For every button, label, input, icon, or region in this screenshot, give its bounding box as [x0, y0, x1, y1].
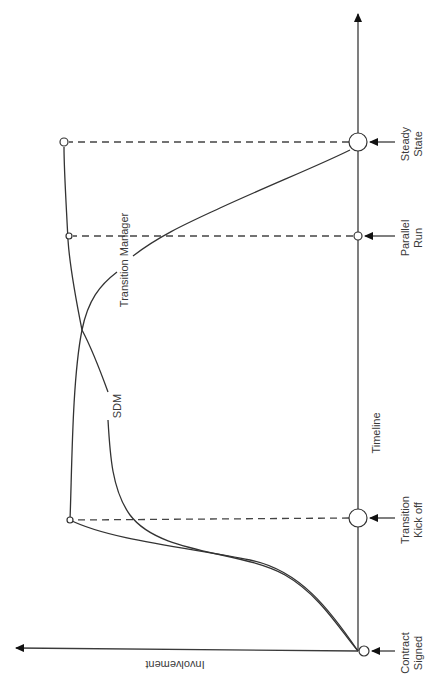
transition-involvement-diagram: Contract Signed Transition Kick off Para…: [0, 0, 445, 699]
parallel-run-node: [354, 232, 362, 240]
sdm-curve-label: SDM: [111, 394, 123, 418]
involvement-axis: [16, 648, 358, 651]
kickoff-dashed-guide: [74, 518, 349, 520]
steady-state-node: [349, 133, 367, 151]
sdm-curve: [108, 420, 358, 651]
sdm-curve-upper: [64, 147, 108, 392]
involvement-axis-label: Involvement: [145, 659, 204, 671]
parallel-run-node-left: [66, 233, 72, 239]
steady-state-label-line2: State: [412, 131, 424, 157]
contract-signed-label-line2: Signed: [412, 636, 424, 670]
steady-state-sdm-peak-node: [60, 138, 68, 146]
kickoff-label-line2: Kick off: [412, 501, 424, 538]
steady-state-label-line1: Steady: [399, 126, 411, 161]
contract-signed-node: [359, 646, 369, 656]
kickoff-label-line1: Transition: [399, 496, 411, 544]
transition-manager-curve-upper: [133, 150, 350, 256]
transition-manager-curve-label: Transition Manager: [118, 212, 130, 307]
parallel-run-label-line2: Run: [412, 228, 424, 248]
kickoff-tm-peak-node: [67, 517, 73, 523]
transition-manager-curve: [70, 272, 358, 651]
timeline-axis-label: Timeline: [370, 412, 382, 453]
kickoff-node: [349, 509, 367, 527]
parallel-run-label-line1: Parallel: [399, 220, 411, 257]
contract-signed-label-line1: Contract: [399, 632, 411, 674]
